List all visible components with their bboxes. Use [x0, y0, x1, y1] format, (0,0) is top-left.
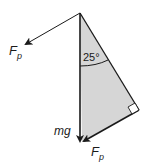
fp-top-label: Fp	[9, 44, 22, 61]
force-triangle	[80, 13, 139, 142]
diagram-canvas	[0, 0, 153, 167]
angle-label: 25°	[83, 52, 100, 63]
fp-top-vector-arrow	[26, 13, 80, 44]
force-diagram: Fp 25° mg Fp	[0, 0, 153, 167]
fp-bottom-label: Fp	[91, 145, 104, 162]
mg-label: mg	[54, 125, 71, 137]
